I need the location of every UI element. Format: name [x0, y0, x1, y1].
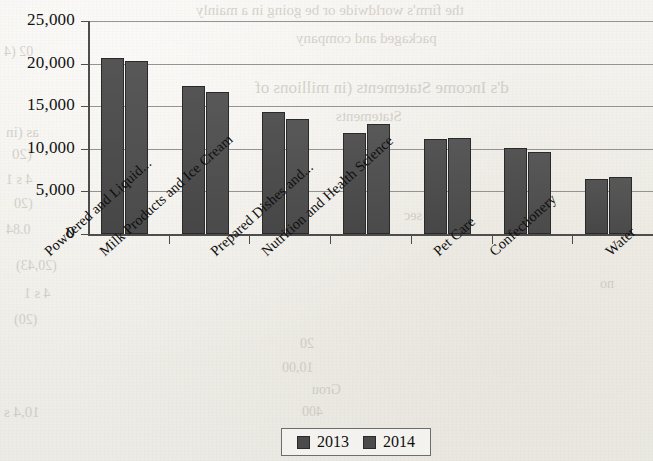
x-axis-tick — [572, 235, 573, 244]
y-axis-label: 20,000 — [0, 53, 75, 73]
y-axis-tick — [81, 191, 88, 192]
legend-label-2014: 2014 — [383, 433, 415, 451]
x-axis-line — [88, 234, 653, 236]
y-axis-tick — [81, 21, 88, 22]
legend-swatch-2013 — [297, 436, 310, 449]
legend-item-2013: 2013 — [297, 433, 349, 451]
y-axis-tick — [81, 234, 88, 235]
x-axis-tick — [411, 235, 412, 244]
chart-legend: 2013 2014 — [281, 428, 431, 456]
gridline — [88, 64, 653, 65]
x-axis-tick — [330, 235, 331, 244]
gridline — [88, 106, 653, 107]
y-axis-label: 15,000 — [0, 95, 75, 115]
gridline — [88, 21, 653, 22]
y-axis-label: 25,000 — [0, 10, 75, 30]
y-axis-tick — [81, 64, 88, 65]
bar-2013-5 — [424, 139, 447, 234]
y-axis-tick — [81, 106, 88, 107]
x-axis-tick — [249, 235, 250, 244]
y-axis-label: 5,000 — [0, 180, 75, 200]
x-axis-tick — [169, 235, 170, 244]
legend-label-2013: 2013 — [317, 433, 349, 451]
legend-item-2014: 2014 — [363, 433, 415, 451]
bar-chart: 05,00010,00015,00020,00025,000 Powdered … — [0, 0, 653, 461]
bar-2013-7 — [585, 179, 608, 234]
y-axis-tick — [81, 149, 88, 150]
y-axis-label: 10,000 — [0, 138, 75, 158]
legend-swatch-2014 — [363, 436, 376, 449]
